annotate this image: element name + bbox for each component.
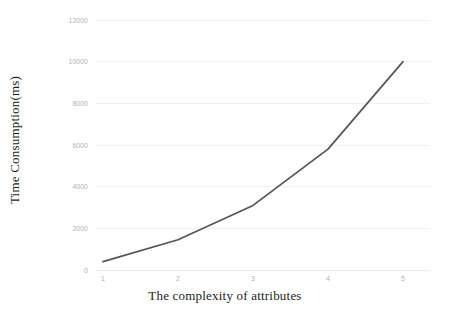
line-chart: Time Consumption(ms) 0200040006000800010… — [0, 0, 450, 318]
x-axis-tick-labels: 12345 — [101, 275, 405, 282]
gridlines — [96, 20, 430, 270]
x-tick-label: 1 — [101, 275, 105, 282]
x-tick-label: 3 — [251, 275, 255, 282]
y-tick-label: 12000 — [69, 17, 89, 24]
y-axis-tick-labels: 020004000600080001000012000 — [69, 17, 89, 274]
x-axis-title: The complexity of attributes — [0, 288, 450, 304]
y-tick-label: 0 — [84, 267, 88, 274]
y-tick-label: 4000 — [72, 183, 88, 190]
plot-area: 020004000600080001000012000 12345 — [0, 0, 450, 288]
y-tick-label: 2000 — [72, 225, 88, 232]
x-tick-label: 5 — [401, 275, 405, 282]
x-axis-title-text: The complexity of attributes — [148, 288, 301, 303]
data-line — [103, 62, 403, 262]
x-tick-label: 4 — [326, 275, 330, 282]
y-tick-label: 8000 — [72, 100, 88, 107]
y-tick-label: 6000 — [72, 142, 88, 149]
y-tick-label: 10000 — [69, 58, 89, 65]
x-tick-label: 2 — [176, 275, 180, 282]
data-series — [103, 62, 403, 262]
